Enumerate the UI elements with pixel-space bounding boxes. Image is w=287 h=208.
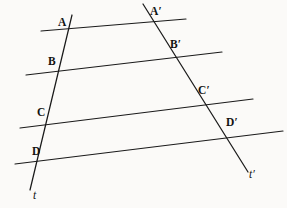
- point-label-c-prime: C′: [198, 85, 210, 97]
- point-label-a-prime: A′: [150, 6, 162, 18]
- point-label-d-prime: D′: [226, 117, 238, 129]
- point-label-b: B: [48, 56, 56, 68]
- line-label-t-prime: t′: [249, 169, 255, 181]
- point-label-b-prime: B′: [170, 39, 181, 51]
- parallel-lines-group: [15, 19, 283, 164]
- transversal-lines-group: [30, 4, 248, 190]
- diagram-canvas: [0, 0, 287, 208]
- transversal-line-t: [30, 15, 72, 190]
- parallel-line-DD-prime: [15, 131, 283, 164]
- point-label-c: C: [37, 107, 45, 119]
- geometry-diagram: A B C D A′ B′ C′ D′ t t′: [0, 0, 287, 208]
- point-label-d: D: [32, 146, 40, 158]
- line-label-t: t: [33, 190, 36, 202]
- point-label-a: A: [58, 17, 66, 29]
